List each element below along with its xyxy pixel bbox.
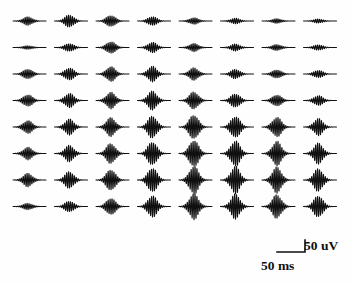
- scale-bar-time-label: 50 ms: [261, 259, 294, 273]
- scale-bar-path: [277, 240, 305, 252]
- waveform-array-figure: 50 uV 50 ms: [0, 0, 352, 284]
- scale-bar: [0, 0, 352, 284]
- scale-bar-amplitude-label: 50 uV: [304, 239, 338, 253]
